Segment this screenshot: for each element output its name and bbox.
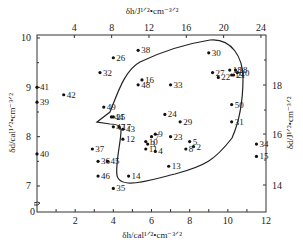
x2-tick-label: 4: [72, 22, 77, 33]
data-point-49: [102, 105, 105, 108]
point-label-24: 24: [168, 109, 178, 119]
x-tick-label: 8: [187, 215, 192, 226]
point-label-13: 13: [172, 161, 182, 171]
point-label-25: 25: [116, 112, 126, 122]
point-label-30: 30: [212, 48, 222, 58]
data-point-27: [211, 71, 214, 74]
data-point-23: [169, 135, 172, 138]
point-label-49: 49: [107, 102, 117, 112]
x2-tick-label: 24: [256, 22, 266, 33]
point-label-37: 37: [95, 144, 105, 154]
data-point-13: [167, 165, 170, 168]
data-point-48: [137, 83, 140, 86]
data-point-34: [255, 142, 258, 145]
data-point-18: [228, 68, 231, 71]
plot-frame: [37, 35, 266, 212]
x2-tick-label: 20: [219, 22, 229, 33]
point-label-34: 34: [259, 139, 269, 149]
data-point-4: [154, 150, 157, 153]
data-point-32: [98, 71, 101, 74]
x-tick-label: 12: [261, 215, 271, 226]
data-point-39: [35, 101, 38, 104]
point-label-39: 39: [40, 97, 50, 107]
data-point-22: [217, 76, 220, 79]
x2-tick-label: 8: [109, 22, 114, 33]
data-point-47: [112, 125, 115, 128]
data-point-9: [154, 133, 157, 136]
data-point-41: [35, 86, 38, 89]
y2-tick-label: 14: [272, 180, 282, 191]
x-tick-label: 10: [223, 215, 233, 226]
data-point-35: [112, 187, 115, 190]
point-label-2: 2: [196, 142, 201, 152]
point-label-29: 29: [183, 117, 193, 127]
data-point-40: [35, 152, 38, 155]
data-point-50: [230, 103, 233, 106]
y-tick-label: 10: [21, 32, 31, 43]
point-label-26: 26: [116, 53, 126, 63]
data-point-31: [230, 120, 233, 123]
point-label-14: 14: [132, 171, 142, 181]
point-label-42: 42: [67, 90, 76, 100]
data-point-43: [121, 128, 124, 131]
point-label-4: 4: [158, 146, 163, 156]
y2-tick-label: 18: [272, 80, 282, 91]
x2-tick-label: 12: [144, 22, 154, 33]
point-label-32: 32: [103, 68, 112, 78]
point-label-21: 21: [237, 70, 246, 80]
data-point-46: [96, 175, 99, 178]
data-point-15: [255, 155, 258, 158]
point-label-33: 33: [174, 80, 184, 90]
y-tick-label: 8: [26, 131, 31, 142]
point-label-40: 40: [40, 149, 50, 159]
point-label-38: 38: [141, 45, 151, 55]
chart-canvas: 246810124812162024109870181614δh/cal¹ᐟ²•…: [0, 0, 303, 248]
y-tick-label: 9: [26, 82, 31, 93]
data-point-38: [137, 49, 140, 52]
data-point-37: [91, 147, 94, 150]
data-point-21: [232, 73, 235, 76]
data-point-25: [112, 115, 115, 118]
data-point-24: [163, 113, 166, 116]
y-tick-label: 0: [30, 206, 35, 217]
x-tick-label: 6: [149, 215, 154, 226]
point-label-31: 31: [235, 117, 244, 127]
data-point-12: [121, 138, 124, 141]
point-label-8: 8: [189, 144, 194, 154]
x2-axis-title: δh/J¹ᐟ²•cm⁻³ᐟ²: [126, 6, 179, 16]
point-label-35: 35: [116, 183, 126, 193]
y2-axis-title: δd/J¹ᐟ²•cm⁻³ᐟ²: [285, 96, 295, 149]
point-label-46: 46: [101, 171, 111, 181]
point-label-22: 22: [221, 72, 230, 82]
y-tick-label: 7: [26, 180, 31, 191]
point-label-9: 9: [158, 129, 163, 139]
y-axis-title: δd/cal¹ᐟ²•cm⁻³ᐟ²: [7, 93, 17, 153]
point-label-50: 50: [235, 100, 245, 110]
point-label-15: 15: [259, 151, 269, 161]
data-point-36: [96, 160, 99, 163]
point-label-23: 23: [174, 132, 184, 142]
data-point-26: [112, 56, 115, 59]
scatter-chart: 246810124812162024109870181614δh/cal¹ᐟ²•…: [0, 0, 303, 248]
data-point-45: [106, 160, 109, 163]
point-label-48: 48: [141, 80, 151, 90]
data-point-33: [169, 83, 172, 86]
point-label-45: 45: [111, 156, 121, 166]
point-label-47: 47: [116, 122, 126, 132]
data-point-8: [184, 147, 187, 150]
data-point-14: [127, 175, 130, 178]
x-tick-label: 4: [111, 215, 116, 226]
point-label-43: 43: [126, 124, 136, 134]
point-label-41: 41: [40, 82, 49, 92]
data-point-5: [188, 140, 191, 143]
point-label-12: 12: [126, 134, 135, 144]
data-point-29: [179, 120, 182, 123]
data-point-42: [62, 93, 65, 96]
x-tick-label: 2: [73, 215, 78, 226]
data-point-11: [144, 147, 147, 150]
x2-tick-label: 16: [181, 22, 191, 33]
y2-tick-label: 16: [272, 129, 282, 140]
data-point-30: [207, 51, 210, 54]
x-axis-title: δh/cal¹ᐟ²•cm⁻³ᐟ²: [122, 230, 182, 240]
